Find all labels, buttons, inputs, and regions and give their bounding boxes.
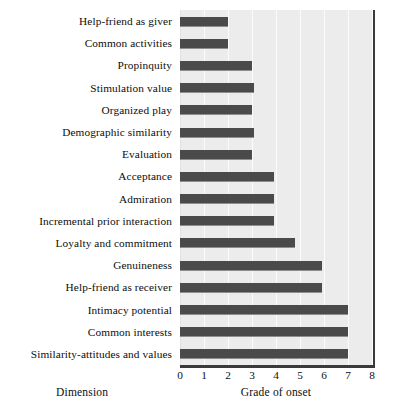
bar (180, 305, 348, 314)
y-axis-label: Demographic similarity (62, 126, 172, 138)
bar (180, 128, 254, 137)
bar-row (180, 215, 372, 227)
bars-layer (180, 10, 372, 365)
bar (180, 150, 252, 159)
bar-row (180, 148, 372, 160)
x-tick-label: 0 (177, 368, 183, 382)
x-tick-label: 5 (297, 368, 303, 382)
y-axis-label: Organized play (101, 104, 172, 116)
y-axis-label: Help-friend as giver (79, 15, 172, 27)
bar-row (180, 193, 372, 205)
bar (180, 349, 348, 358)
y-axis-label: Genuineness (113, 259, 172, 271)
bar-row (180, 15, 372, 27)
bar (180, 261, 322, 270)
y-axis-label: Intimacy potential (88, 304, 172, 316)
bar (180, 172, 274, 181)
bar-row (180, 126, 372, 138)
bar (180, 216, 274, 225)
x-tick-label: 6 (321, 368, 327, 382)
bar (180, 283, 322, 292)
x-tick-label: 1 (201, 368, 207, 382)
bar-row (180, 104, 372, 116)
y-axis-label: Stimulation value (90, 82, 172, 94)
y-axis-label: Propinquity (118, 59, 172, 71)
bar (180, 194, 274, 203)
bar-row (180, 170, 372, 182)
y-axis-label: Evaluation (122, 148, 172, 160)
bar-row (180, 59, 372, 71)
bar-row (180, 82, 372, 94)
plot-area (180, 10, 375, 368)
bar (180, 39, 228, 48)
bar-row (180, 259, 372, 271)
bar (180, 327, 348, 336)
x-tick-label: 7 (345, 368, 351, 382)
y-axis-label: Common activities (85, 37, 172, 49)
x-tick-label: 3 (249, 368, 255, 382)
x-axis-title: Grade of onset (180, 386, 372, 398)
y-axis-label: Common interests (88, 326, 172, 338)
y-axis-label: Incremental prior interaction (39, 215, 172, 227)
y-axis-label: Loyalty and commitment (56, 237, 172, 249)
y-axis-label: Similarity-attitudes and values (31, 348, 172, 360)
bar-chart: Help-friend as giverCommon activitiesPro… (0, 0, 415, 409)
x-tick-label: 8 (369, 368, 375, 382)
gridline-8 (372, 10, 373, 365)
x-tick-label: 4 (273, 368, 279, 382)
bar-row (180, 348, 372, 360)
y-axis-label: Admiration (119, 193, 172, 205)
bar-row (180, 237, 372, 249)
bar (180, 17, 228, 26)
bar-row (180, 326, 372, 338)
bar-row (180, 281, 372, 293)
y-axis-category-labels: Help-friend as giverCommon activitiesPro… (0, 10, 176, 365)
y-axis-label: Help-friend as receiver (66, 281, 172, 293)
y-axis-title: Dimension (56, 386, 108, 398)
y-axis-label: Acceptance (118, 170, 172, 182)
bar (180, 105, 252, 114)
bar (180, 83, 254, 92)
x-axis-tick-labels: 012345678 (180, 368, 372, 384)
bar (180, 238, 295, 247)
bar (180, 61, 252, 70)
x-tick-label: 2 (225, 368, 231, 382)
bar-row (180, 37, 372, 49)
bar-row (180, 304, 372, 316)
